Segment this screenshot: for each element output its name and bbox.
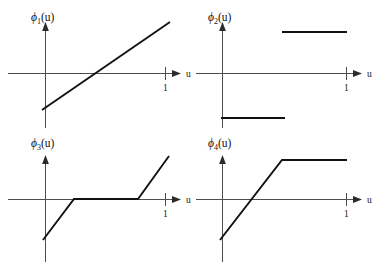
axis-label-phi3: ϕ3(u)	[31, 137, 55, 152]
y-axis-arrowhead-3	[42, 155, 49, 164]
plot-panel-phi1: ϕ1(u) u 1	[0, 0, 195, 134]
x-axis-label-3: u	[186, 195, 191, 205]
phi-arg-4: (u)	[218, 137, 232, 150]
curve-phi3	[43, 156, 169, 240]
x-axis-arrowhead-3	[172, 196, 181, 203]
plot-panel-phi3: ϕ3(u) u 1	[0, 134, 195, 268]
y-axis-arrowhead-1	[42, 22, 49, 31]
figure-nonlinearity-plots: ϕ1(u) u 1 ϕ2(u) u 1 ϕ3(u)	[0, 0, 389, 268]
x-tick-label-1: 1	[163, 83, 168, 93]
plot-panel-phi4: ϕ4(u) u 1	[194, 134, 389, 268]
x-axis-label-1: u	[186, 69, 191, 79]
axis-label-phi1: ϕ1(u)	[31, 11, 55, 26]
y-axis-arrowhead-4	[219, 155, 226, 164]
x-tick-label-4: 1	[344, 209, 349, 219]
x-axis-label-4: u	[367, 195, 372, 205]
x-axis-arrowhead-2	[353, 70, 362, 77]
x-axis-label-2: u	[367, 69, 372, 79]
axis-label-phi2: ϕ2(u)	[208, 11, 232, 26]
curve-phi1	[42, 22, 170, 110]
x-axis-arrowhead-1	[172, 70, 181, 77]
phi-arg-3: (u)	[41, 137, 55, 150]
phi-arg-2: (u)	[218, 11, 232, 24]
plot-panel-phi2: ϕ2(u) u 1	[194, 0, 389, 134]
x-tick-label-3: 1	[163, 209, 168, 219]
axis-label-phi4: ϕ4(u)	[208, 137, 232, 152]
x-axis-arrowhead-4	[353, 196, 362, 203]
y-axis-arrowhead-2	[219, 22, 226, 31]
x-tick-label-2: 1	[344, 83, 349, 93]
phi-arg-1: (u)	[41, 11, 55, 24]
